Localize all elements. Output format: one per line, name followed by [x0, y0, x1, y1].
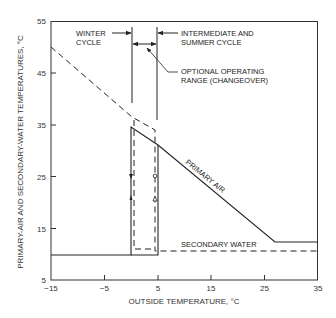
summer-cycle-label: INTERMEDIATE AND	[181, 29, 254, 38]
x-tick-label: −5	[100, 284, 110, 293]
up-arrow-icon	[130, 195, 133, 200]
y-tick-label: 15	[37, 225, 46, 234]
x-axis	[105, 275, 265, 280]
summer-cycle-label-2: SUMMER CYCLE	[181, 38, 241, 47]
y-tick-label: 55	[37, 17, 46, 26]
optional-range-leader	[147, 48, 178, 72]
x-tick-labels: −15 −5 5 15 25 35	[44, 284, 323, 293]
y-axis-title: PRIMARY-AIR AND SECONDARY-WATER TEMPERAT…	[16, 35, 25, 269]
optional-range-label-2: RANGE (CHANGEOVER)	[181, 76, 269, 85]
y-tick-label: 35	[37, 121, 46, 130]
chart: −15 −5 5 15 25 35 55 45 35 25 15 5 OUTSI…	[0, 0, 336, 318]
open-circle-marker-icon	[153, 174, 157, 178]
open-up-arrow-icon	[153, 196, 157, 201]
primary-air-line	[51, 127, 318, 255]
x-tick-label: 25	[260, 284, 269, 293]
y-axis	[51, 73, 56, 229]
secondary-water-changeover-line	[134, 120, 155, 249]
secondary-water-label: SECONDARY WATER	[181, 240, 257, 249]
y-tick-labels: 55 45 35 25 15 5	[37, 17, 46, 285]
x-tick-label: 5	[156, 284, 161, 293]
x-tick-label: 15	[207, 284, 216, 293]
x-axis-title: OUTSIDE TEMPERATURE, °C	[129, 297, 240, 306]
primary-air-label: PRIMARY AIR	[184, 158, 227, 196]
y-tick-label: 45	[37, 69, 46, 78]
winter-cycle-label-2: CYCLE	[76, 38, 101, 47]
y-tick-label: 25	[37, 173, 46, 182]
x-tick-label: 35	[314, 284, 323, 293]
down-arrow-icon	[129, 174, 133, 179]
x-tick-label: −15	[44, 284, 58, 293]
y-tick-label: 5	[42, 276, 47, 285]
winter-cycle-label: WINTER	[76, 29, 106, 38]
optional-range-label: OPTIONAL OPERATING	[181, 67, 265, 76]
